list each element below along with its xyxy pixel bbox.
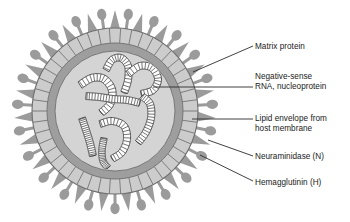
label-lipid-line2: host membrane [255, 124, 312, 133]
label-rna-nucleoprotein: Negative-senseRNA, nucleoprotein [255, 72, 326, 93]
neuraminidase-knob [110, 203, 119, 215]
label-rna-line2: RNA, nucleoprotein [255, 82, 326, 91]
diagram-page: Matrix protein Negative-senseRNA, nucleo… [0, 0, 350, 222]
label-rna-line1: Negative-sense [255, 72, 312, 81]
label-matrix-protein: Matrix protein [255, 42, 305, 52]
label-lipid-line1: Lipid envelope from [255, 114, 327, 123]
label-matrix-protein-line1: Matrix protein [255, 42, 305, 51]
label-lipid-envelope: Lipid envelope fromhost membrane [255, 114, 327, 135]
label-hemagglutinin: Hemagglutinin (H) [255, 178, 321, 188]
influenza-virus-figure [0, 0, 350, 222]
label-neuraminidase-line1: Neuraminidase (N) [255, 152, 324, 161]
rna-striation [123, 96, 124, 103]
label-neuraminidase: Neuraminidase (N) [255, 152, 324, 162]
label-hemagglutinin-line1: Hemagglutinin (H) [255, 178, 321, 187]
